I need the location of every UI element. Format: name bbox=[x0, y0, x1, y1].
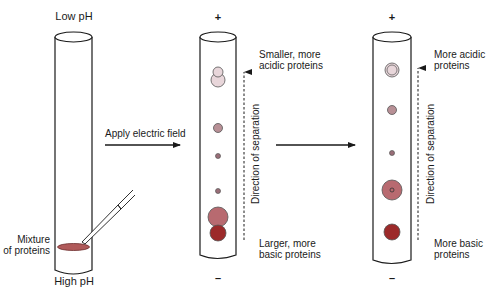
negative-sign: – bbox=[208, 272, 228, 284]
protein-band bbox=[214, 124, 223, 133]
more-acidic-label: More acidic proteins bbox=[434, 49, 485, 71]
protein-band bbox=[390, 151, 395, 156]
smaller-acidic-label: Smaller, more acidic proteins bbox=[259, 49, 323, 71]
protein-band bbox=[213, 67, 223, 77]
tube-final bbox=[373, 32, 411, 264]
more-basic-label: More basic proteins bbox=[434, 238, 483, 260]
sample-band bbox=[58, 244, 90, 251]
direction-label: Direction of separation bbox=[425, 104, 436, 204]
tube-opening bbox=[200, 32, 236, 42]
tube-opening bbox=[55, 32, 92, 42]
protein-band bbox=[208, 207, 228, 227]
apply-field-label: Apply electric field bbox=[105, 128, 186, 139]
protein-band bbox=[388, 106, 397, 115]
protein-band bbox=[384, 224, 400, 240]
mixture-label: Mixture of proteins bbox=[0, 234, 50, 256]
tube-after-field bbox=[200, 32, 236, 259]
larger-basic-label: Larger, more basic proteins bbox=[259, 238, 321, 260]
protein-band bbox=[210, 225, 226, 241]
protein-band bbox=[216, 189, 221, 194]
negative-sign: – bbox=[382, 272, 402, 284]
positive-sign: + bbox=[382, 11, 402, 23]
protein-band bbox=[382, 180, 402, 200]
low-ph-label: Low pH bbox=[46, 11, 102, 22]
positive-sign: + bbox=[208, 11, 228, 23]
protein-band bbox=[216, 154, 221, 159]
high-ph-label: High pH bbox=[46, 276, 102, 287]
tube-opening bbox=[373, 32, 411, 42]
direction-label: Direction of separation bbox=[250, 104, 261, 204]
